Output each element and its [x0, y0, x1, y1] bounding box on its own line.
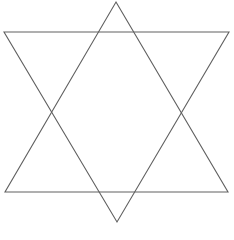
hexagram-svg: Star of David (hexagram) line drawing Tw… — [0, 0, 234, 240]
hexagram-figure: Star of David (hexagram) line drawing Tw… — [0, 0, 234, 240]
canvas-background — [0, 0, 234, 240]
